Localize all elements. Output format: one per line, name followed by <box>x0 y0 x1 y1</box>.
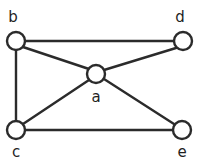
node-label-b: b <box>8 10 18 25</box>
edge-c-a <box>23 80 89 124</box>
edge-a-e <box>104 79 174 124</box>
node-label-c: c <box>12 145 20 160</box>
node-b[interactable] <box>7 32 25 50</box>
graph-diagram: b d a c e <box>0 0 201 162</box>
node-group <box>7 32 192 139</box>
node-c[interactable] <box>7 121 25 139</box>
node-e[interactable] <box>173 121 191 139</box>
edge-a-d <box>104 48 176 70</box>
node-label-e: e <box>177 145 186 160</box>
node-d[interactable] <box>174 32 192 50</box>
node-a[interactable] <box>87 65 105 83</box>
node-label-a: a <box>91 90 100 105</box>
edge-b-a <box>23 47 89 69</box>
graph-canvas <box>0 0 201 162</box>
edge-group <box>16 41 176 130</box>
node-label-d: d <box>175 10 185 25</box>
